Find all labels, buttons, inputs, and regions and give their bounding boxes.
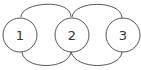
edge-2-3-top — [72, 4, 122, 18]
node-1: 1 — [3, 18, 37, 52]
edge-1-2-top — [21, 4, 71, 17]
node-3: 3 — [106, 18, 140, 52]
diagram-canvas: 1 2 3 — [0, 0, 141, 70]
edge-2-3-bottom — [71, 52, 122, 66]
edge-1-2-bottom — [22, 52, 71, 66]
node-2-label: 2 — [68, 28, 76, 43]
node-3-label: 3 — [119, 28, 127, 43]
node-2: 2 — [55, 18, 89, 52]
node-1-label: 1 — [16, 28, 24, 43]
